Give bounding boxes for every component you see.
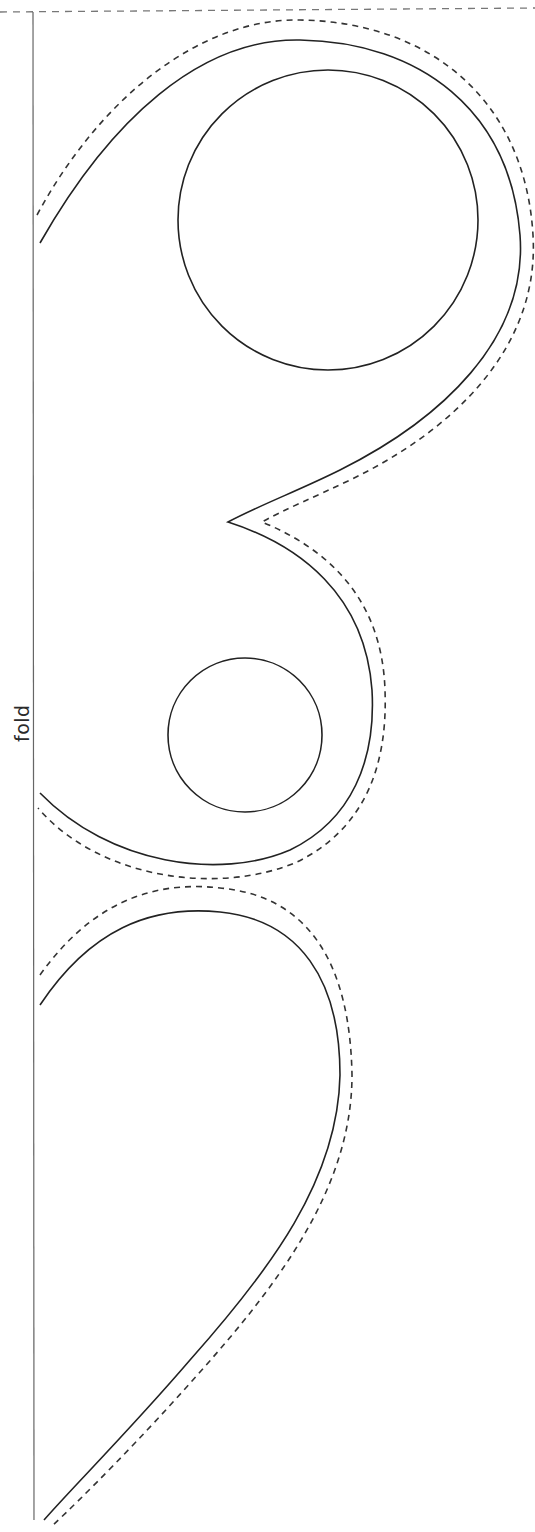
upper-piece-seam-allowance — [37, 20, 533, 879]
pattern-sheet: fold — [0, 0, 535, 1532]
pattern-drawing — [0, 0, 535, 1532]
fold-label: fold — [10, 692, 34, 742]
small-circle-cutout — [168, 658, 322, 812]
large-circle-cutout — [178, 70, 478, 370]
lower-piece-seam-allowance — [40, 887, 352, 1526]
lower-piece-cut-line — [40, 911, 340, 1520]
fold-line — [33, 12, 34, 1520]
upper-piece-cut-line — [40, 40, 521, 865]
top-edge-dashed-line — [0, 8, 535, 12]
